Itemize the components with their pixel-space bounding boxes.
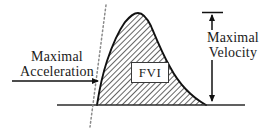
maximal-velocity-label: Maximal Velocity xyxy=(200,30,266,60)
flow-velocity-integral-figure: Maximal Acceleration Maximal Velocity FV… xyxy=(0,0,270,131)
maximal-acceleration-label: Maximal Acceleration xyxy=(8,49,106,79)
maximal-velocity-label-line1: Maximal xyxy=(200,30,266,45)
maximal-acceleration-label-line1: Maximal xyxy=(8,49,106,64)
fvi-region-label: FVI xyxy=(131,62,169,83)
maximal-velocity-label-line2: Velocity xyxy=(200,45,266,60)
maximal-acceleration-label-line2: Acceleration xyxy=(8,64,106,79)
